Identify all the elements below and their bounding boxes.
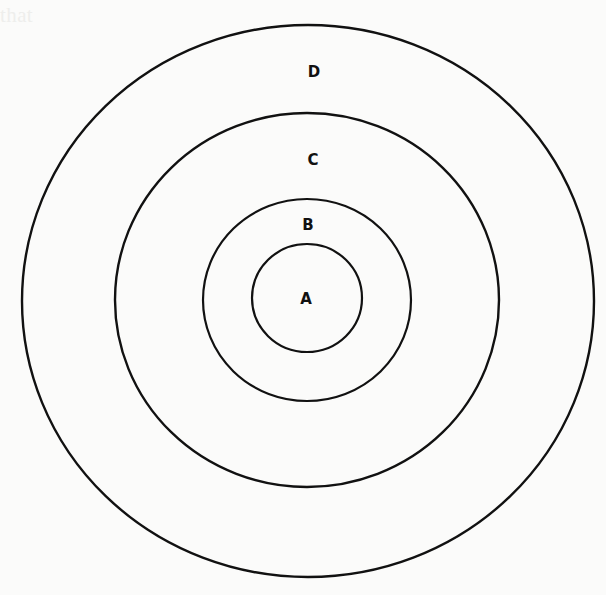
concentric-circles-diagram: D C B A [0,0,606,595]
label-b: B [302,216,313,234]
label-c: C [307,151,318,169]
diagram-page: that [0,0,606,595]
label-a: A [300,290,312,308]
label-d: D [308,63,320,81]
